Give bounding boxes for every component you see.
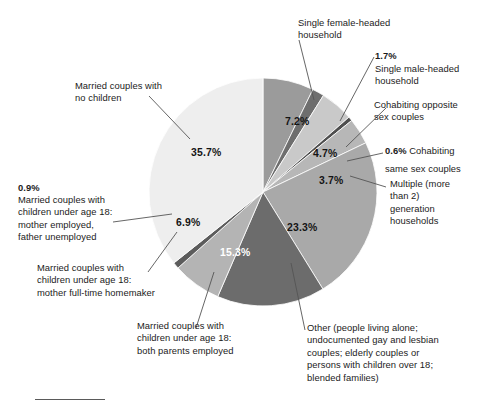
slice-value-35-7: 35.7% (191, 147, 221, 158)
footer-rule (35, 399, 105, 400)
slice-value-3-7: 3.7% (319, 175, 343, 186)
callout-single-male-percent: 1.7% (375, 50, 397, 62)
callout-both-parents-employed: Married couples with children under age … (137, 320, 287, 357)
pie-chart-figure: 35.7% 7.2% 4.7% 3.7% 23.3% 15.3% 6.9% Ma… (0, 0, 490, 413)
callout-multiple-generation: Multiple (more than 2) generation househ… (390, 178, 486, 228)
callout-father-unemployed: Married couples with children under age … (18, 194, 146, 244)
callout-father-unemployed-percent: 0.9% (18, 182, 40, 194)
callout-single-male-headed: Single male-headed household (375, 63, 487, 88)
callout-cohabiting-same-sex-percent: 0.6% (385, 145, 407, 156)
slice-value-4-7: 4.7% (313, 148, 337, 159)
leader-line-single-male (340, 57, 374, 121)
callout-mother-full-time-homemaker: Married couples with children under age … (37, 262, 217, 299)
callout-cohabiting-same-sex-block: 0.6% Cohabiting same sex couples (385, 140, 490, 176)
callout-other: Other (people living alone; undocumented… (307, 322, 483, 384)
slice-value-6-9: 6.9% (176, 217, 200, 228)
callout-cohabiting-opposite-sex: Cohabiting opposite sex couples (374, 99, 490, 124)
slice-value-23-3: 23.3% (287, 222, 317, 233)
slice-value-7-2: 7.2% (285, 116, 309, 127)
slice-value-15-3: 15.3% (220, 247, 250, 258)
callout-no-children: Married couples with no children (75, 80, 215, 105)
callout-single-female-headed: Single female-headed household (298, 17, 428, 42)
